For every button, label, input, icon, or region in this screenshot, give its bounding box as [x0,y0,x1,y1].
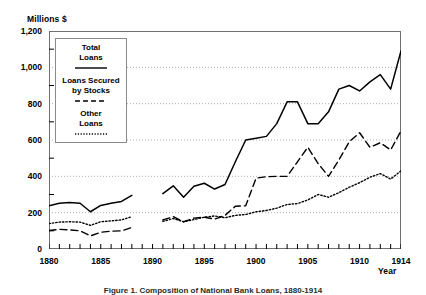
figure-caption: Figure 1. Composition of National Bank L… [0,286,426,295]
x-axis-title: Year [378,266,396,276]
y-tick-label: 200 [0,208,42,218]
chart-legend: Total Loans Loans Secured by Stocks Othe… [55,38,127,143]
legend-label-other-loans-line1: Other [58,109,124,119]
x-tick-label: 1880 [40,256,59,266]
y-axis-title: Millions $ [27,14,67,24]
legend-label-secured-line1: Loans Secured [58,76,124,86]
legend-label-secured-line2: by Stocks [58,86,124,96]
chart-figure: Millions $ Year 02004006008001,0001,200 … [0,0,426,295]
y-tick-label: 600 [0,135,42,145]
y-tick-label: 800 [0,99,42,109]
legend-label-total-loans-line1: Total [58,43,124,53]
x-tick-label: 1905 [298,256,317,266]
x-tick-label: 1895 [195,256,214,266]
y-tick-label: 0 [0,244,42,254]
legend-label-total-loans-line2: Loans [58,53,124,63]
x-tick-label: 1914 [392,256,411,266]
x-tick-label: 1900 [247,256,266,266]
x-tick-label: 1885 [91,256,110,266]
legend-entry-other-loans: Other Loans [58,109,124,137]
y-tick-label: 1,000 [0,62,42,72]
legend-label-other-loans-line2: Loans [58,119,124,129]
y-tick-label: 400 [0,171,42,181]
legend-swatch-other-loans [58,129,124,137]
legend-entry-loans-secured-by-stocks: Loans Secured by Stocks [58,76,124,104]
x-tick-label: 1910 [350,256,369,266]
legend-entry-total-loans: Total Loans [58,43,124,71]
legend-swatch-total-loans [58,63,124,71]
legend-swatch-loans-secured-by-stocks [58,96,124,104]
y-tick-label: 1,200 [0,26,42,36]
x-tick-label: 1890 [143,256,162,266]
plot-area: Total Loans Loans Secured by Stocks Othe… [49,31,401,249]
